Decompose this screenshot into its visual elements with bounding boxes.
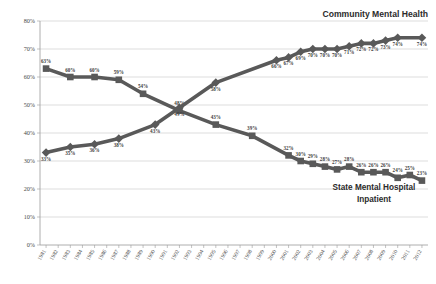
x-axis-tick-label: 1995 xyxy=(206,248,217,261)
x-axis-tick-label: 1986 xyxy=(97,248,108,261)
data-point-marker xyxy=(334,166,341,173)
x-axis-tick-label: 1997 xyxy=(230,248,241,261)
x-axis-tick-label: 2000 xyxy=(267,248,278,261)
x-axis-tick-label: 1999 xyxy=(254,248,265,261)
data-point-label: 26% xyxy=(368,162,378,168)
data-point-label: 70% xyxy=(320,52,330,58)
data-point-marker xyxy=(249,133,256,140)
data-point-label: 32% xyxy=(283,145,293,151)
data-point-marker xyxy=(91,74,98,81)
data-point-label: 70% xyxy=(332,52,342,58)
data-point-label: 29% xyxy=(308,153,318,159)
data-point-marker xyxy=(419,177,426,184)
x-axis-tick-label: 2002 xyxy=(291,248,302,261)
x-axis-tick-label: 1984 xyxy=(73,248,84,261)
data-point-label: 49% xyxy=(174,111,184,117)
x-axis-tick-label: 1988 xyxy=(121,248,132,261)
data-point-marker xyxy=(285,152,292,159)
data-point-marker xyxy=(394,175,401,182)
data-point-marker xyxy=(310,161,317,168)
y-axis-tick-label: 20% xyxy=(24,185,35,192)
data-point-label: 24% xyxy=(393,167,403,173)
x-axis-tick-label: 1981 xyxy=(36,248,47,261)
y-axis-tick-label: 10% xyxy=(24,213,35,220)
data-point-label: 71% xyxy=(344,49,354,55)
data-point-marker xyxy=(382,169,389,176)
data-point-label: 58% xyxy=(211,86,221,92)
data-point-label: 28% xyxy=(344,156,354,162)
data-point-label: 38% xyxy=(114,142,124,148)
data-point-label: 59% xyxy=(114,69,124,75)
data-point-label: 43% xyxy=(150,128,160,134)
x-axis-tick-label: 1992 xyxy=(170,248,181,261)
line-chart: 0%10%20%30%40%50%60%70%80%19811982198319… xyxy=(0,0,436,284)
data-point-label: 70% xyxy=(308,52,318,58)
x-axis-tick-label: 2010 xyxy=(388,248,399,261)
x-axis-tick-label: 1991 xyxy=(157,248,168,261)
data-point-label: 28% xyxy=(320,156,330,162)
data-point-marker xyxy=(346,163,353,170)
data-point-marker xyxy=(67,74,74,81)
y-axis-tick-label: 70% xyxy=(24,45,35,52)
data-point-label: 33% xyxy=(41,156,51,162)
data-point-label: 74% xyxy=(417,41,427,47)
x-axis-tick-label: 1987 xyxy=(109,248,120,261)
data-point-label: 25% xyxy=(405,165,415,171)
x-axis-tick-label: 1982 xyxy=(48,248,59,261)
x-axis-tick-label: 2012 xyxy=(412,248,423,261)
data-point-marker xyxy=(358,169,365,176)
data-point-marker xyxy=(213,121,220,128)
data-point-label: 60% xyxy=(89,67,99,73)
x-axis-tick-label: 1989 xyxy=(133,248,144,261)
x-axis-tick-label: 2003 xyxy=(303,248,314,261)
data-point-label: 67% xyxy=(283,60,293,66)
data-point-label: 72% xyxy=(356,46,366,52)
y-axis-tick-label: 30% xyxy=(24,157,35,164)
data-point-marker xyxy=(43,65,50,72)
x-axis-tick-label: 2008 xyxy=(364,248,375,261)
data-point-label: 60% xyxy=(65,67,75,73)
data-point-marker xyxy=(407,172,414,179)
data-point-label: 43% xyxy=(211,114,221,120)
data-point-marker xyxy=(370,169,377,176)
data-point-label: 26% xyxy=(380,162,390,168)
y-axis-tick-label: 50% xyxy=(24,101,35,108)
data-point-marker xyxy=(297,158,304,165)
data-point-label: 66% xyxy=(271,63,281,69)
data-point-label: 35% xyxy=(65,150,75,156)
data-point-label: 63% xyxy=(41,58,51,64)
series-line-1 xyxy=(46,38,422,153)
y-axis-tick-label: 0% xyxy=(27,241,35,248)
annotation-state-hospital-line1: State Mental Hospital xyxy=(333,183,416,192)
x-axis-tick-label: 1990 xyxy=(145,248,156,261)
x-axis-tick-label: 1998 xyxy=(242,248,253,261)
data-point-label: 26% xyxy=(356,162,366,168)
x-axis-tick-label: 2004 xyxy=(315,248,326,261)
x-axis-tick-label: 2005 xyxy=(327,248,338,261)
data-point-label: 27% xyxy=(332,159,342,165)
x-axis-tick-label: 1985 xyxy=(85,248,96,261)
data-point-marker xyxy=(140,91,147,98)
data-point-label: 73% xyxy=(380,44,390,50)
y-axis-tick-label: 60% xyxy=(24,73,35,80)
data-point-label: 39% xyxy=(247,125,257,131)
data-point-label: 36% xyxy=(89,147,99,153)
data-point-label: 74% xyxy=(393,41,403,47)
annotation-state-hospital-line2: Inpatient xyxy=(357,195,391,204)
x-axis-tick-label: 2011 xyxy=(400,248,411,261)
y-axis-tick-label: 40% xyxy=(24,129,35,136)
x-axis-tick-label: 2007 xyxy=(351,248,362,261)
data-point-marker xyxy=(322,163,329,170)
x-axis-tick-label: 1996 xyxy=(218,248,229,261)
x-axis-tick-label: 2001 xyxy=(279,248,290,261)
x-axis-tick-label: 2009 xyxy=(376,248,387,261)
data-point-label: 72% xyxy=(368,46,378,52)
x-axis-tick-label: 2006 xyxy=(339,248,350,261)
y-axis-tick-label: 80% xyxy=(24,17,35,24)
x-axis-tick-label: 1983 xyxy=(60,248,71,261)
annotation-community-mental-health: Community Mental Health xyxy=(322,9,428,19)
data-point-label: 54% xyxy=(138,83,148,89)
data-point-marker xyxy=(116,77,123,84)
data-point-label: 30% xyxy=(296,151,306,157)
chart-container: 0%10%20%30%40%50%60%70%80%19811982198319… xyxy=(0,0,436,284)
